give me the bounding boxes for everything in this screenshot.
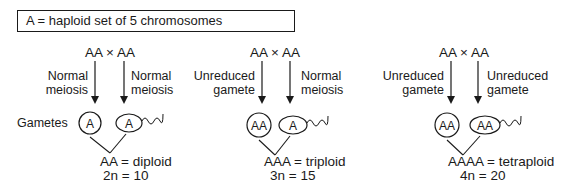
left-process-line1: Unreduced — [383, 69, 444, 83]
sperm-tail-icon — [142, 114, 163, 124]
right-process-line1: Normal — [301, 69, 341, 83]
cross-triploid: AA × AA Unreduced gamete Normal meiosis … — [194, 45, 346, 183]
fusion-line — [259, 140, 275, 155]
parents-cross: AA × AA — [85, 45, 135, 60]
sperm-tail-icon — [500, 116, 521, 126]
result-chromosome-count: 3n = 15 — [270, 168, 315, 183]
arrowhead-icon — [286, 96, 294, 104]
cross-diploid: AA × AA Normal meiosis Normal meiosis A … — [46, 45, 174, 183]
parents-cross: AA × AA — [439, 45, 489, 60]
arrowhead-icon — [91, 96, 99, 104]
result-ploidy: AA = diploid — [100, 154, 172, 169]
fusion-line — [110, 134, 126, 153]
sperm-genotype: A — [289, 119, 297, 133]
sperm-tail-icon — [307, 116, 328, 126]
egg-genotype: AA — [251, 119, 267, 133]
left-process-line2: gamete — [213, 83, 255, 97]
result-ploidy: AAA = triploid — [264, 154, 345, 169]
result-chromosome-count: 4n = 20 — [460, 168, 505, 183]
polyploidy-diagram: Gametes AA × AA Normal meiosis Normal me… — [0, 0, 561, 194]
gametes-label: Gametes — [17, 116, 68, 130]
result-ploidy: AAAA = tetraploid — [448, 154, 554, 169]
arrowhead-icon — [258, 96, 266, 104]
egg-genotype: AA — [439, 119, 455, 133]
right-process-line1: Unreduced — [487, 69, 548, 83]
arrowhead-icon — [474, 96, 482, 104]
left-process-line2: gamete — [402, 83, 444, 97]
result-chromosome-count: 2n = 10 — [103, 168, 148, 183]
left-process-line2: meiosis — [46, 83, 88, 97]
parents-cross: AA × AA — [250, 45, 300, 60]
sperm-genotype: A — [125, 117, 133, 131]
right-process-line2: meiosis — [301, 83, 343, 97]
left-process-line1: Unreduced — [194, 69, 255, 83]
sperm-genotype: AA — [477, 119, 493, 133]
right-process-line1: Normal — [131, 69, 171, 83]
left-process-line1: Normal — [48, 69, 88, 83]
egg-genotype: A — [86, 117, 94, 131]
cross-tetraploid: AA × AA Unreduced gamete Unreduced gamet… — [383, 45, 554, 183]
fusion-line — [275, 136, 290, 155]
fusion-line — [463, 136, 480, 155]
right-process-line2: meiosis — [131, 83, 173, 97]
fusion-line — [447, 140, 463, 155]
arrowhead-icon — [447, 96, 455, 104]
arrowhead-icon — [120, 96, 128, 104]
right-process-line2: gamete — [487, 83, 529, 97]
fusion-line — [90, 137, 110, 153]
